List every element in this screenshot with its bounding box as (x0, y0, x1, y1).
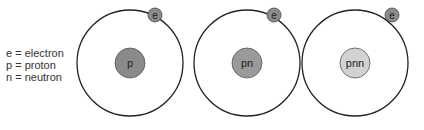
atom-diagrams: p e pn e pnn e (0, 0, 424, 130)
electron-label: e (389, 10, 395, 21)
atom-deuterium: pn e (194, 8, 300, 116)
electron-label: e (271, 10, 277, 21)
nucleus-label: pnn (346, 57, 364, 69)
atom-hydrogen: p e (77, 8, 183, 116)
nucleus-label: p (127, 57, 133, 69)
atom-tritium: pnn e (302, 8, 408, 116)
nucleus-label: pn (241, 57, 253, 69)
electron-label: e (152, 10, 158, 21)
